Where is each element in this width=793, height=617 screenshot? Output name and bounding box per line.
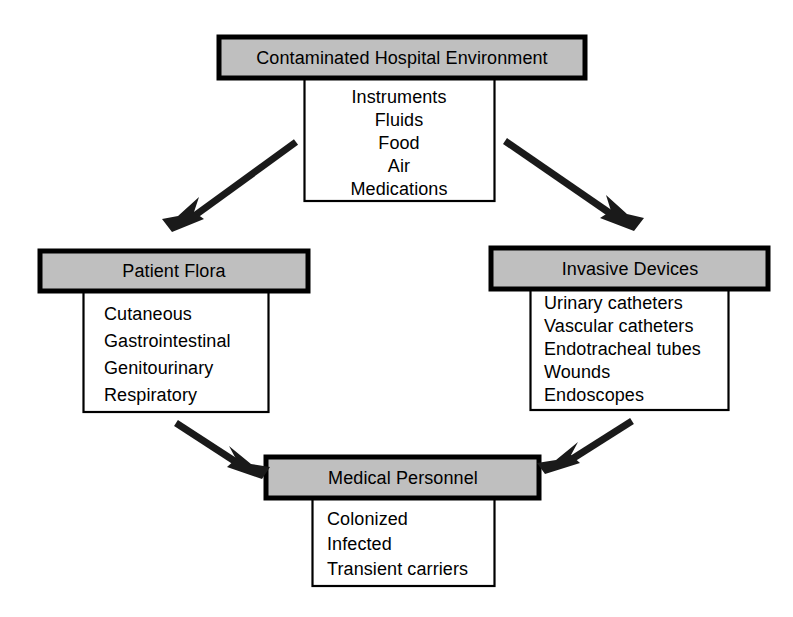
node-item-2: Transient carriers bbox=[327, 559, 468, 579]
node-contaminated-hospital-environment[interactable]: Contaminated Hospital Environment Instru… bbox=[219, 37, 585, 201]
arrow-patient-flora-to-medical-personnel bbox=[176, 423, 270, 479]
node-item-0: Instruments bbox=[351, 87, 446, 107]
node-patient-flora[interactable]: Patient Flora Cutaneous Gastrointestinal… bbox=[40, 251, 308, 412]
node-header-label: Patient Flora bbox=[122, 261, 226, 281]
node-item-0: Colonized bbox=[327, 509, 408, 529]
node-medical-personnel[interactable]: Medical Personnel Colonized Infected Tra… bbox=[266, 457, 539, 586]
node-item-0: Urinary catheters bbox=[544, 293, 683, 313]
node-item-1: Infected bbox=[327, 534, 392, 554]
node-item-1: Fluids bbox=[375, 110, 424, 130]
node-header-label: Invasive Devices bbox=[562, 259, 699, 279]
node-header-label: Medical Personnel bbox=[328, 468, 478, 488]
node-item-3: Wounds bbox=[544, 362, 610, 382]
arrow-env-to-patient-flora bbox=[162, 142, 296, 232]
node-item-2: Endotracheal tubes bbox=[544, 339, 701, 359]
node-item-2: Genitourinary bbox=[104, 358, 213, 378]
node-item-4: Endoscopes bbox=[544, 385, 644, 405]
node-invasive-devices[interactable]: Invasive Devices Urinary catheters Vascu… bbox=[491, 248, 768, 410]
flowchart-diagram: Contaminated Hospital Environment Instru… bbox=[0, 0, 793, 617]
node-item-0: Cutaneous bbox=[104, 304, 192, 324]
node-item-2: Food bbox=[378, 133, 419, 153]
node-item-3: Air bbox=[388, 156, 410, 176]
arrow-invasive-devices-to-medical-personnel bbox=[537, 421, 632, 474]
node-item-1: Gastrointestinal bbox=[104, 331, 231, 351]
diagram-canvas: Contaminated Hospital Environment Instru… bbox=[0, 0, 793, 617]
arrow-env-to-invasive-devices bbox=[505, 141, 644, 231]
node-item-1: Vascular catheters bbox=[544, 316, 694, 336]
node-item-3: Respiratory bbox=[104, 385, 197, 405]
node-header-label: Contaminated Hospital Environment bbox=[256, 48, 547, 68]
node-item-4: Medications bbox=[350, 179, 447, 199]
